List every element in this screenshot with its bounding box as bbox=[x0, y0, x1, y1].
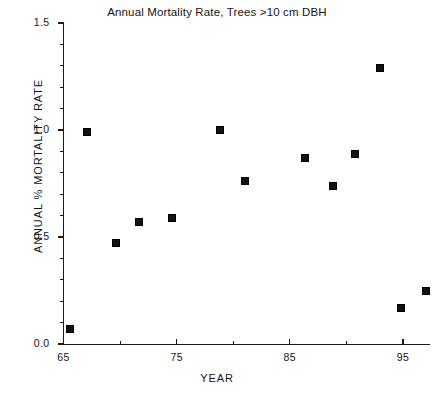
data-point bbox=[422, 287, 430, 295]
data-point bbox=[376, 64, 384, 72]
data-point bbox=[216, 126, 224, 134]
scatter-chart-figure: Annual Mortality Rate, Trees >10 cm DBH … bbox=[0, 0, 434, 400]
y-tick-label: 1.5 bbox=[24, 16, 50, 28]
chart-title: Annual Mortality Rate, Trees >10 cm DBH bbox=[0, 6, 434, 18]
data-point bbox=[66, 325, 74, 333]
data-point bbox=[83, 128, 91, 136]
data-point bbox=[397, 304, 405, 312]
data-point bbox=[301, 154, 309, 162]
data-point bbox=[135, 218, 143, 226]
data-point bbox=[351, 150, 359, 158]
y-axis-title: ANNUAL % MORTALITY RATE bbox=[32, 66, 44, 266]
x-tick-label: 75 bbox=[162, 351, 192, 363]
data-point bbox=[241, 177, 249, 185]
x-axis-title: YEAR bbox=[0, 372, 434, 384]
data-point bbox=[112, 239, 120, 247]
data-point bbox=[329, 182, 337, 190]
data-point bbox=[168, 214, 176, 222]
x-tick-label: 95 bbox=[388, 351, 418, 363]
y-tick-label: 0.0 bbox=[24, 337, 50, 349]
x-tick-label: 85 bbox=[275, 351, 305, 363]
x-tick-label: 65 bbox=[49, 351, 79, 363]
